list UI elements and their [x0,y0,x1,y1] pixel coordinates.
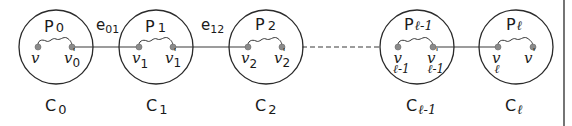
path-label-p-l-minus-1: Pℓ-1 [404,15,433,34]
path-components-diagram: e01 e12 P0 v v'0 C0 P1 v1 v'1 C1 P2 v2 v… [0,0,572,126]
path-label-p-l: Pℓ [506,15,523,34]
component-c-l: Pℓ vℓ v' Cℓ [479,10,553,117]
path-curve [38,38,72,47]
path-curve [248,38,282,47]
vertex-label-v1-prime: v'1 [165,46,181,70]
path-label-p2: P2 [255,15,276,34]
component-label-c-l-minus-1: Cℓ-1 [406,96,436,117]
path-curve [139,38,173,47]
vertex-label-v0-prime: v'0 [64,46,80,70]
path-curve [498,38,533,47]
component-c2: P2 v2 v'2 C2 [229,10,303,117]
component-c0: P0 v v'0 C0 [19,10,93,117]
vertex-label-v-l: vℓ [492,49,501,76]
component-label-c0: C0 [45,96,66,117]
edge-label-e01: e01 [96,16,119,36]
vertex-label-v1: v1 [132,49,148,71]
component-label-c2: C2 [255,96,276,117]
vertex-label-v-l-minus-1: vℓ-1 [393,49,410,76]
path-label-p0: P0 [44,17,64,36]
component-c-l-minus-1: Pℓ-1 vℓ-1 v'ℓ-1 Cℓ-1 [380,10,454,117]
path-label-p1: P1 [145,17,166,36]
edge-label-e12: e12 [201,16,224,36]
vertex-label-v2-prime: v'2 [274,46,290,70]
vertex-label-v2: v2 [241,49,257,71]
vertex-label-v: v [31,49,40,67]
component-c1: P1 v1 v'1 C1 [119,10,193,117]
component-label-c-l: Cℓ [505,96,523,117]
path-curve [398,38,433,47]
component-label-c1: C1 [146,96,167,117]
vertex-label-v-l-minus-1-prime: v'ℓ-1 [427,46,444,76]
vertex-label-v-prime: v' [524,46,536,67]
